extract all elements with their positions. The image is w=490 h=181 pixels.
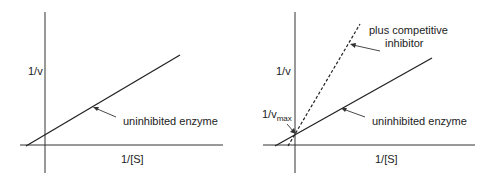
- right-uninhibited-line: [275, 58, 432, 146]
- left-arrow: [95, 108, 116, 117]
- right-inhibitor-arrow: [353, 45, 380, 51]
- right-line-label: uninhibited enzyme: [372, 115, 467, 127]
- right-x-axis-label: 1/[S]: [375, 153, 398, 165]
- right-y-axis-label: 1/v: [276, 65, 291, 77]
- left-line-label: uninhibited enzyme: [123, 115, 218, 127]
- inhibitor-label-line1: plus competitive: [369, 24, 448, 36]
- left-x-axis-label: 1/[S]: [121, 153, 144, 165]
- left-y-axis-label: 1/v: [28, 65, 43, 77]
- right-inhibitor-line: [288, 24, 360, 146]
- intercept-label: 1/vmax: [262, 108, 292, 125]
- left-uninhibited-line: [26, 55, 180, 146]
- inhibitor-label-line2: inhibitor: [385, 37, 424, 49]
- right-uninhibited-arrow: [343, 109, 365, 117]
- right-inhibitor-arrowhead: [350, 43, 356, 48]
